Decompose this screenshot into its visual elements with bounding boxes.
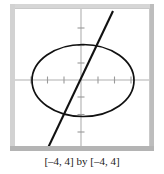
frame-bevel-bottom — [10, 146, 154, 151]
plot-screen — [15, 9, 149, 146]
frame-bevel-top — [10, 4, 154, 8]
frame-bevel-right — [150, 4, 154, 151]
line-curve — [47, 11, 113, 146]
plot-canvas — [15, 9, 149, 146]
graph-figure: [–4, 4] by [–4, 4] — [0, 0, 164, 174]
viewport-range-caption: [–4, 4] by [–4, 4] — [0, 154, 164, 168]
